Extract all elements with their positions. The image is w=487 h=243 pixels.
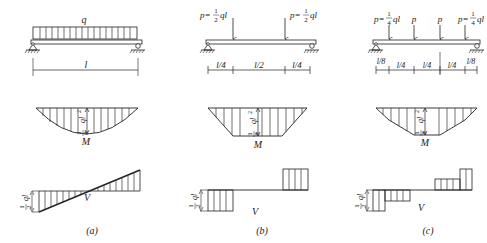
- svg-text:2: 2: [247, 111, 253, 114]
- svg-text:1: 1: [304, 7, 308, 15]
- svg-text:p=: p=: [199, 10, 211, 20]
- svg-text:ql: ql: [310, 10, 318, 20]
- shear-label-V: V: [418, 202, 426, 213]
- svg-text:l/4: l/4: [216, 60, 226, 70]
- moment-label-M: M: [420, 137, 430, 148]
- beam: [206, 40, 316, 44]
- svg-text:ql: ql: [477, 14, 485, 24]
- svg-text:l/2: l/2: [254, 60, 264, 70]
- roller-support-icon: [130, 44, 145, 53]
- svg-text:4: 4: [387, 19, 391, 27]
- panel-a: q l 1: [18, 14, 145, 237]
- load-label-q: q: [82, 14, 87, 25]
- moment-label-M: M: [81, 136, 91, 147]
- moment-value-label: 1 8 ql 2: [246, 111, 261, 137]
- svg-text:ql: ql: [393, 14, 401, 24]
- svg-text:2: 2: [304, 16, 308, 24]
- svg-text:ql: ql: [356, 193, 365, 200]
- dimension-line: l/8 l/4 l/4 l/4 l/8: [376, 52, 477, 75]
- point-loads: p= 1 4 ql p p p= 1 4 ql: [373, 10, 485, 39]
- svg-text:l/4: l/4: [423, 61, 431, 70]
- panel-c: p= 1 4 ql p p p= 1 4 ql l/8 l/4 l/: [353, 10, 485, 237]
- moment-value-label: 1 8 ql 2: [413, 110, 428, 136]
- shear-label-V: V: [252, 206, 260, 217]
- dimension-line: l/4 l/2 l/4: [208, 60, 310, 74]
- caption-b: (b): [256, 225, 268, 237]
- svg-text:p: p: [411, 14, 417, 24]
- shear-diagram: 1 2 ql V: [187, 169, 308, 217]
- svg-text:2: 2: [214, 16, 218, 24]
- svg-text:ql: ql: [249, 117, 258, 124]
- svg-text:p=: p=: [457, 14, 469, 24]
- span-label: l: [85, 59, 88, 70]
- moment-value-label: 1 8 ql 2: [75, 110, 90, 136]
- svg-text:l/4: l/4: [448, 61, 456, 70]
- shear-diagram: 1 2 ql V: [353, 169, 472, 213]
- svg-text:p=: p=: [289, 10, 301, 20]
- svg-text:l/8: l/8: [467, 57, 475, 66]
- svg-text:l/8: l/8: [377, 57, 385, 66]
- svg-text:2: 2: [76, 110, 82, 113]
- beam: [373, 40, 480, 44]
- caption-a: (a): [86, 225, 98, 237]
- shear-value-label: 1 2 ql: [18, 194, 33, 210]
- caption-c: (c): [422, 225, 434, 237]
- roller-support-icon: [304, 44, 319, 53]
- svg-text:2: 2: [414, 110, 420, 113]
- point-load-left: p= 1 2 ql: [199, 7, 233, 39]
- svg-text:p=: p=: [373, 14, 385, 24]
- shear-value-label: 1 2 ql: [353, 193, 368, 209]
- svg-text:ql: ql: [78, 116, 87, 123]
- svg-text:l/4: l/4: [292, 60, 302, 70]
- panel-b: p= 1 2 ql p= 1 2 ql l/4 l/2 l/4: [187, 7, 319, 237]
- distributed-load-q: q: [33, 14, 137, 39]
- moment-label-M: M: [253, 139, 263, 150]
- dimension-line: l: [33, 58, 138, 76]
- svg-text:p: p: [437, 14, 443, 24]
- point-load-right: p= 1 2 ql: [285, 7, 318, 39]
- moment-diagram: 1 8 ql 2 M: [376, 108, 477, 148]
- svg-text:l/4: l/4: [397, 61, 405, 70]
- shear-label-V: V: [84, 192, 92, 203]
- roller-support-icon: [469, 44, 484, 53]
- beam: [31, 40, 142, 44]
- shear-value-label: 1 2 ql: [187, 193, 202, 209]
- svg-text:ql: ql: [21, 194, 30, 201]
- beam-diagram-figure: q l 1: [0, 0, 487, 243]
- moment-diagram: 1 8 ql 2 M: [36, 108, 138, 147]
- shear-diagram: 1 2 ql V: [18, 170, 140, 212]
- svg-text:ql: ql: [220, 10, 228, 20]
- svg-text:ql: ql: [416, 116, 425, 123]
- moment-diagram: 1 8 ql 2 M: [208, 108, 307, 150]
- svg-text:1: 1: [387, 10, 391, 18]
- svg-text:1: 1: [471, 10, 475, 18]
- svg-text:ql: ql: [190, 193, 199, 200]
- svg-text:4: 4: [471, 19, 475, 27]
- svg-text:1: 1: [214, 7, 218, 15]
